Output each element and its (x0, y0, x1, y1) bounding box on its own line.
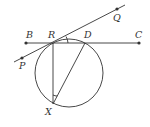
label-r: R (47, 29, 55, 40)
geometry-diagram: B R D C P Q X (0, 0, 150, 127)
label-q: Q (113, 12, 121, 23)
label-p: P (18, 60, 26, 71)
angle-mark-rxd (53, 95, 57, 96)
point-c-dot (137, 41, 140, 44)
label-d: D (83, 29, 92, 40)
label-b: B (25, 29, 33, 40)
label-x: X (44, 106, 53, 117)
chord-dx (53, 43, 85, 104)
point-b-dot (24, 41, 27, 44)
label-c: C (135, 29, 143, 40)
angle-mark-qrd (66, 37, 68, 44)
point-q-dot (115, 7, 118, 10)
